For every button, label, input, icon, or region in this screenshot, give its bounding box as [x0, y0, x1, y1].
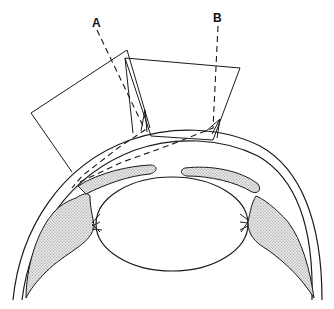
ray-a-label: A — [92, 16, 101, 30]
ray-b: B — [80, 11, 222, 182]
mirror-prism-left — [31, 50, 150, 172]
ciliary-body-right — [248, 196, 314, 298]
ray-b-label: B — [213, 11, 222, 25]
iris-right — [181, 167, 259, 192]
lens — [96, 177, 248, 271]
eye-gonioscopy-diagram: A B — [0, 0, 334, 309]
ciliary-body-left — [26, 194, 94, 298]
mirror-prism-center — [125, 58, 240, 140]
